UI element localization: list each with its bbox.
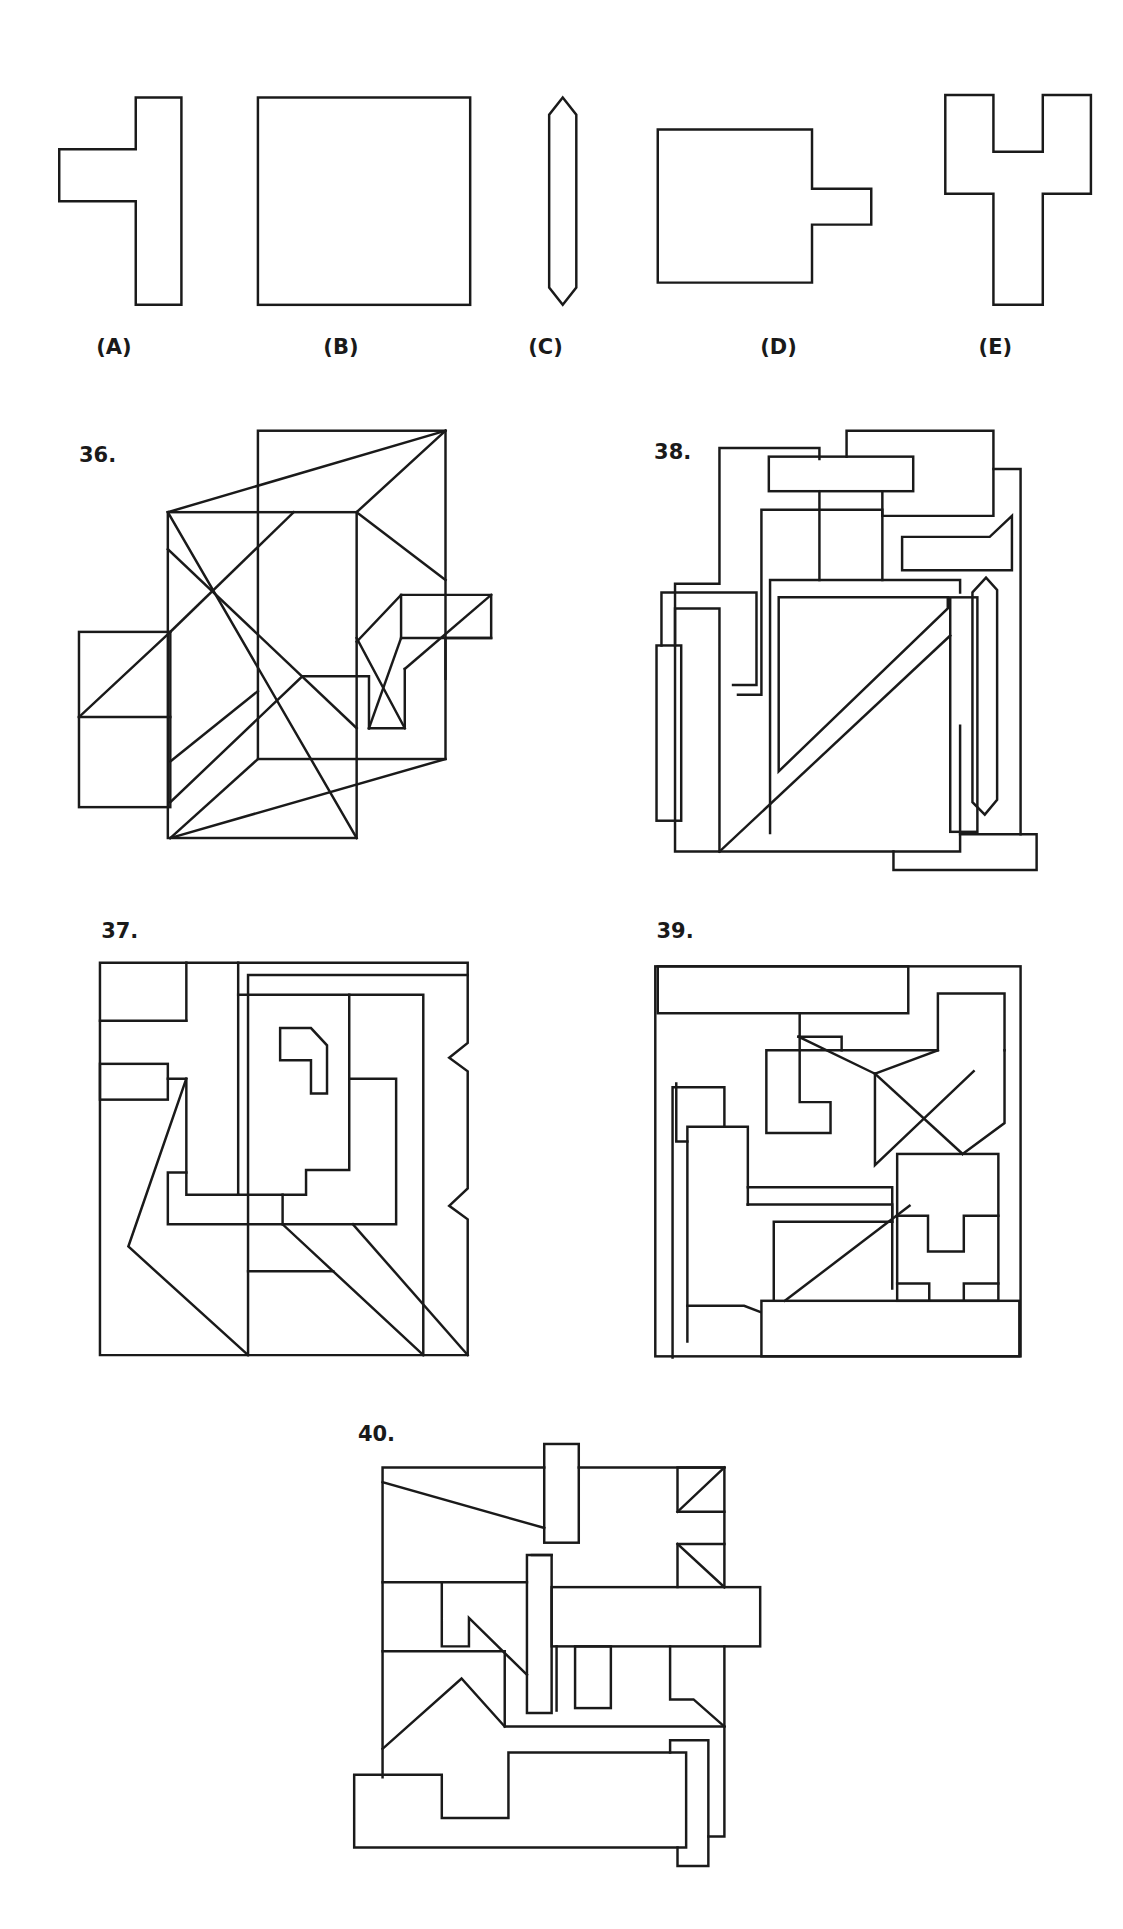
choice-c-shape: [549, 97, 576, 304]
choice-e-shape: [945, 95, 1091, 305]
choice-b-shape: [258, 97, 470, 304]
question-38-figure: [657, 431, 1037, 870]
question-36-figure: [79, 431, 491, 838]
question-36-number: 36.: [79, 443, 116, 467]
choice-a-label: (A): [96, 335, 131, 359]
hidden-figures-page: (A) (B) (C) (D) (E) 36.: [0, 0, 1123, 1929]
choice-b-label: (B): [323, 335, 358, 359]
choice-d-label: (D): [760, 335, 797, 359]
question-37-figure: [100, 963, 468, 1355]
question-38-number: 38.: [654, 440, 691, 464]
choice-e-label: (E): [979, 335, 1012, 359]
question-40-figure: [354, 1444, 760, 1866]
question-39-number: 39.: [657, 919, 694, 943]
choice-c-label: (C): [528, 335, 563, 359]
question-40-number: 40.: [358, 1423, 395, 1447]
question-39-figure: [655, 966, 1020, 1357]
choice-d-shape: [658, 130, 871, 283]
question-37-number: 37.: [101, 919, 138, 943]
choice-a-shape: [59, 97, 181, 304]
